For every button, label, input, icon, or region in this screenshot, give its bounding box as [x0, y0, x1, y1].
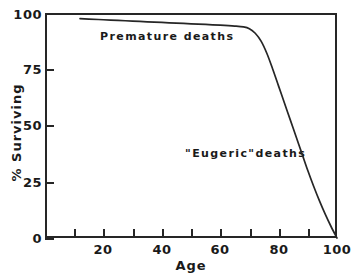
survival-curve-figure: 100 75 50 25 0 20 40 60 80 100 Age % Sur… [0, 0, 358, 279]
survival-curve-svg [0, 0, 358, 279]
survival-curve-line [80, 19, 337, 238]
